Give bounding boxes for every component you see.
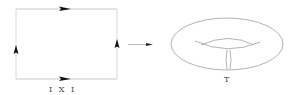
torus-hole-lower-curve (195, 41, 260, 49)
torus-construction-diagram: I X I T (0, 0, 292, 95)
torus-label: T (224, 75, 230, 84)
torus-outline (171, 18, 283, 70)
unit-square (14, 7, 120, 82)
torus-hole-upper-curve (201, 39, 254, 46)
torus-meridian-front (226, 50, 227, 69)
torus (171, 18, 283, 70)
mapping-arrowhead-icon (146, 43, 153, 46)
square-label: I X I (49, 85, 76, 94)
torus-meridian-back (230, 50, 231, 69)
mapping-arrow (128, 43, 153, 46)
